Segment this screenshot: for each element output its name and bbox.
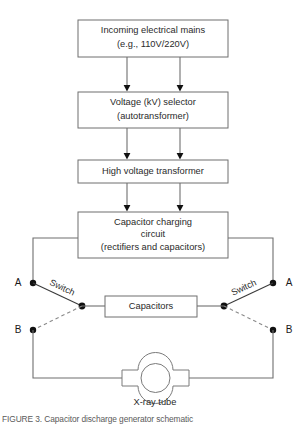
terminal-right-b-label: B <box>286 324 293 335</box>
arrowhead-icon <box>177 205 184 212</box>
switch-right-alternate-path <box>224 306 273 330</box>
arrowhead-icon <box>177 85 184 92</box>
block-kv-selector-line-2: (autotransformer) <box>117 111 189 121</box>
figure-caption: FIGURE 3. Capacitor discharge generator … <box>2 414 304 424</box>
wire-charging-to-left-a <box>33 238 78 283</box>
block-charging-circuit-line-1: Capacitor charging <box>114 217 192 227</box>
switch-left-label: Switch <box>48 277 76 297</box>
terminal-left-b-label: B <box>15 324 22 335</box>
block-charging-circuit-line-2: circuit <box>141 229 166 239</box>
connector-mains-to-kv <box>124 57 184 92</box>
connector-transformer-to-charging <box>124 183 184 212</box>
wire-right-b-to-tube <box>189 330 273 378</box>
block-capacitors-label: Capacitors <box>129 301 174 311</box>
block-mains-line-2: (e.g., 110V/220V) <box>117 39 189 49</box>
arrowhead-icon <box>124 85 131 92</box>
block-kv-selector-line-1: Voltage (kV) selector <box>110 97 196 107</box>
block-hv-transformer-line-1: High voltage transformer <box>102 166 204 176</box>
arrowhead-icon <box>124 205 131 212</box>
switch-left-alternate-path <box>33 306 82 330</box>
arrowhead-icon <box>177 153 184 160</box>
block-mains-line-1: Incoming electrical mains <box>101 25 206 35</box>
xray-tube-label: X-ray tube <box>134 397 177 407</box>
switch-right-label: Switch <box>230 277 258 297</box>
block-charging-circuit-line-3: (rectifiers and capacitors) <box>101 242 205 252</box>
terminal-left-a-label: A <box>15 277 22 288</box>
wire-charging-to-right-a <box>228 238 273 283</box>
connector-kv-to-transformer <box>124 128 184 160</box>
arrowhead-icon <box>124 153 131 160</box>
xray-tube-icon <box>122 353 189 404</box>
wire-left-b-to-tube <box>33 330 122 378</box>
terminal-right-a-label: A <box>286 277 293 288</box>
